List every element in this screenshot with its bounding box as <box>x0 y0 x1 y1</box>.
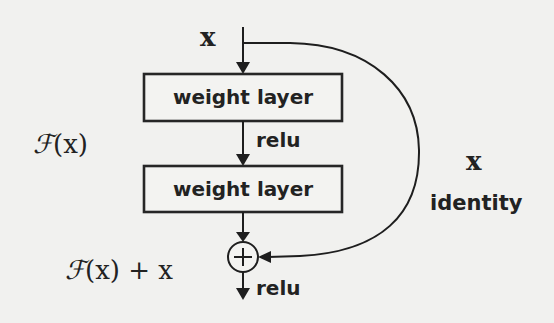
input-arrow <box>236 27 250 74</box>
layer-to-sum-arrow <box>236 212 250 242</box>
input-label: x <box>200 22 216 52</box>
weight-layer-2-label: weight layer <box>173 177 313 201</box>
weight-layer-1: weight layer <box>144 74 342 121</box>
weight-layer-1-label: weight layer <box>173 85 313 109</box>
weight-layer-2: weight layer <box>144 166 342 212</box>
relu-arrow-1 <box>236 121 250 166</box>
relu-label-1: relu <box>256 128 301 152</box>
residual-function-label: ℱ(x) <box>33 129 88 159</box>
shortcut-variable-label: x <box>466 146 482 176</box>
sum-node <box>228 242 258 272</box>
residual-block-diagram: x weight layer relu weight layer <box>0 0 554 323</box>
relu-label-output: relu <box>256 276 301 300</box>
output-arrow <box>236 272 250 300</box>
shortcut-identity-label: identity <box>430 191 523 215</box>
sum-output-label: ℱ(x) + x <box>65 255 173 285</box>
